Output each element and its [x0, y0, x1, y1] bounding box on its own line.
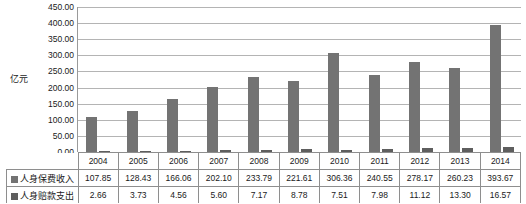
bar-premium-income	[207, 87, 218, 152]
table-row: 人身赔款支出2.663.734.565.607.178.787.517.9811…	[7, 187, 521, 204]
bar-premium-income	[86, 117, 97, 152]
table-cell-value: 107.85	[78, 170, 118, 187]
bar-group	[320, 7, 360, 152]
bar-group	[78, 7, 118, 152]
y-axis-tick-label: 300.00	[30, 50, 74, 60]
table-header-year: 2014	[480, 153, 520, 170]
table-header-row: 2004200520062007200820092010201120122013…	[7, 153, 521, 170]
legend-entry: 人身赔款支出	[7, 187, 79, 204]
table-header-year: 2007	[199, 153, 239, 170]
table-header-year: 2012	[400, 153, 440, 170]
table-cell-value: 166.06	[158, 170, 198, 187]
table-cell-value: 8.78	[279, 187, 319, 204]
bar-group	[482, 7, 522, 152]
bar-group	[280, 7, 320, 152]
table-header-year: 2013	[440, 153, 480, 170]
y-axis-tick-label: 450.00	[30, 2, 74, 12]
bar-premium-income	[288, 81, 299, 152]
table-cell-value: 16.57	[480, 187, 520, 204]
table-cell-value: 260.23	[440, 170, 480, 187]
table-cell-value: 278.17	[400, 170, 440, 187]
table-cell-value: 7.17	[239, 187, 279, 204]
y-axis-tick-label: 200.00	[30, 83, 74, 93]
legend-swatch-icon	[11, 176, 18, 183]
table-cell-value: 233.79	[239, 170, 279, 187]
bar-premium-income	[449, 68, 460, 152]
bar-premium-income	[369, 75, 380, 153]
bar-premium-income	[248, 77, 259, 152]
y-axis-tick-label: 250.00	[30, 66, 74, 76]
bar-premium-income	[328, 53, 339, 152]
legend-swatch-icon	[11, 193, 18, 200]
bar-group	[441, 7, 481, 152]
table-cell-value: 221.61	[279, 170, 319, 187]
table-header-year: 2009	[279, 153, 319, 170]
table-header-year: 2010	[319, 153, 359, 170]
bar-premium-income	[127, 111, 138, 152]
bar-premium-income	[409, 62, 420, 152]
table-cell-value: 5.60	[199, 187, 239, 204]
plot-area	[77, 7, 521, 152]
table-cell-value: 13.30	[440, 187, 480, 204]
y-axis-tick-label: 150.00	[30, 99, 74, 109]
y-axis-tick-label: 400.00	[30, 18, 74, 28]
y-axis-tick-label: 50.00	[30, 131, 74, 141]
data-table: 2004200520062007200820092010201120122013…	[6, 152, 521, 203]
table-cell-value: 202.10	[199, 170, 239, 187]
table-header-year: 2005	[118, 153, 158, 170]
table-corner-cell	[7, 153, 79, 170]
bar-group	[199, 7, 239, 152]
plot-canvas	[77, 7, 521, 152]
bar-premium-income	[490, 25, 501, 152]
table-cell-value: 7.51	[319, 187, 359, 204]
bar-group	[159, 7, 199, 152]
legend-entry: 人身保费收入	[7, 170, 79, 187]
table-cell-value: 128.43	[118, 170, 158, 187]
table-cell-value: 3.73	[118, 187, 158, 204]
chart-screenshot: 亿元 450.00400.00350.00300.00250.00200.001…	[0, 0, 526, 203]
y-axis-tick-label: 350.00	[30, 34, 74, 44]
bar-group	[239, 7, 279, 152]
table-cell-value: 11.12	[400, 187, 440, 204]
bar-group	[361, 7, 401, 152]
table-header-year: 2008	[239, 153, 279, 170]
table-cell-value: 240.55	[360, 170, 400, 187]
table-cell-value: 4.56	[158, 187, 198, 204]
y-axis-ticks: 450.00400.00350.00300.00250.00200.00150.…	[26, 7, 74, 152]
table-cell-value: 7.98	[360, 187, 400, 204]
table-cell-value: 306.36	[319, 170, 359, 187]
table-cell-value: 2.66	[78, 187, 118, 204]
table-header-year: 2006	[158, 153, 198, 170]
bar-premium-income	[167, 99, 178, 153]
y-axis-tick-label: 100.00	[30, 115, 74, 125]
table-cell-value: 393.67	[480, 170, 520, 187]
bar-group	[118, 7, 158, 152]
legend-label: 人身保费收入	[20, 172, 74, 185]
table-header-year: 2011	[360, 153, 400, 170]
table-row: 人身保费收入107.85128.43166.06202.10233.79221.…	[7, 170, 521, 187]
legend-label: 人身赔款支出	[20, 189, 74, 202]
bar-group	[401, 7, 441, 152]
table-header-year: 2004	[78, 153, 118, 170]
